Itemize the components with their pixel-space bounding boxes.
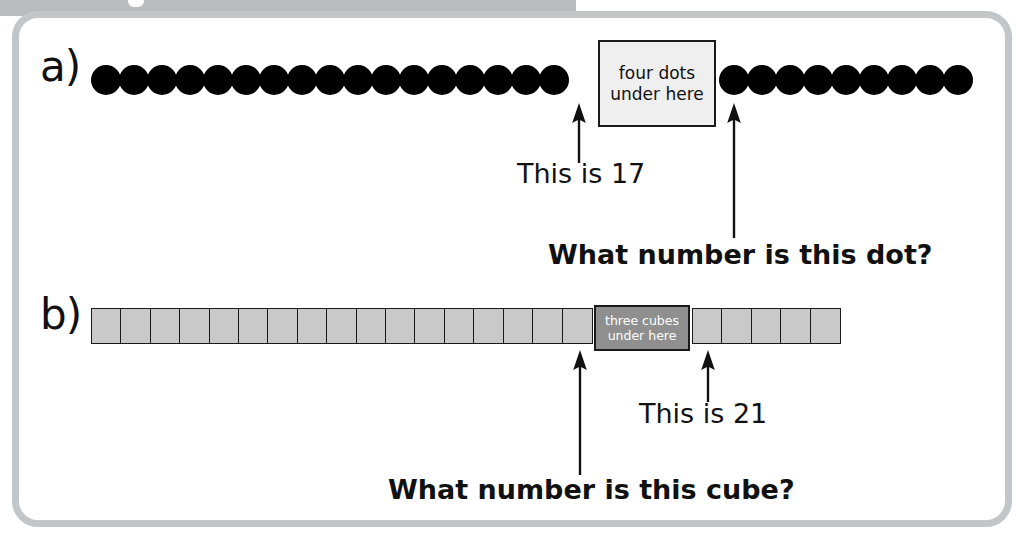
part-a-dot-29 <box>915 65 945 95</box>
part-a-dot-11 <box>371 65 401 95</box>
part-a-dot-25 <box>803 65 833 95</box>
part-b-cover-line2: under here <box>608 328 677 343</box>
part-b-cover-line1: three cubes <box>605 313 679 328</box>
part-a-dot-3 <box>147 65 177 95</box>
part-b-cube-row-right <box>692 307 839 345</box>
part-a-dot-1 <box>91 65 121 95</box>
part-b-cube-12 <box>414 308 445 344</box>
part-a-dot-6 <box>231 65 261 95</box>
part-a-dot-24 <box>775 65 805 95</box>
part-b-arrow-up-icon-question <box>567 350 593 475</box>
part-a-dot-7 <box>259 65 289 95</box>
part-b-cube-23 <box>751 308 782 344</box>
part-b-question-label: What number is this cube? <box>388 474 795 505</box>
part-b-cube-21 <box>692 308 723 344</box>
part-a-dot-14 <box>455 65 485 95</box>
part-b-cube-7 <box>267 308 298 344</box>
part-a-dot-27 <box>859 65 889 95</box>
part-a-dot-12 <box>399 65 429 95</box>
part-a-dot-26 <box>831 65 861 95</box>
part-a-arrow-up-icon-question <box>721 103 747 238</box>
part-b-known-label: This is 21 <box>639 398 767 429</box>
part-a-dot-9 <box>315 65 345 95</box>
part-a-dot-row-right <box>719 63 971 97</box>
part-a-cover-line2: under here <box>610 84 704 105</box>
part-b-cube-15 <box>503 308 534 344</box>
part-b-cube-5 <box>209 308 240 344</box>
part-b-label: b) <box>40 290 81 339</box>
part-a-dot-17 <box>539 65 569 95</box>
worksheet-content: a) four dots under here This is 17 What … <box>0 0 1034 544</box>
part-b-cube-16 <box>532 308 563 344</box>
part-a-dot-5 <box>203 65 233 95</box>
part-a-dot-13 <box>427 65 457 95</box>
part-b-cover-box: three cubes under here <box>594 305 690 351</box>
part-b-cube-8 <box>297 308 328 344</box>
part-a-dot-16 <box>511 65 541 95</box>
part-a-dot-30 <box>943 65 973 95</box>
part-b-cube-22 <box>721 308 752 344</box>
part-a-cover-line1: four dots <box>619 63 695 84</box>
part-a-dot-10 <box>343 65 373 95</box>
part-a-dot-2 <box>119 65 149 95</box>
part-a-dot-row-left <box>91 63 567 97</box>
part-b-cube-14 <box>473 308 504 344</box>
part-b-cube-25 <box>810 308 841 344</box>
part-b-cube-11 <box>385 308 416 344</box>
part-b-arrow-up-icon-known <box>695 350 721 402</box>
part-a-dot-15 <box>483 65 513 95</box>
part-a-dot-8 <box>287 65 317 95</box>
part-a-dot-4 <box>175 65 205 95</box>
worksheet-page: a) four dots under here This is 17 What … <box>0 0 1034 544</box>
part-b-cube-17 <box>562 308 593 344</box>
part-a-dot-22 <box>719 65 749 95</box>
part-b-cube-2 <box>120 308 151 344</box>
part-b-cube-10 <box>356 308 387 344</box>
part-a-dot-28 <box>887 65 917 95</box>
part-a-label: a) <box>40 42 80 91</box>
part-b-cube-4 <box>179 308 210 344</box>
part-b-cube-1 <box>91 308 122 344</box>
part-b-cube-9 <box>326 308 357 344</box>
part-b-cube-row-left <box>91 307 591 345</box>
part-a-known-label: This is 17 <box>517 158 645 189</box>
part-a-arrow-up-icon-known <box>566 103 592 163</box>
part-a-cover-box: four dots under here <box>598 40 716 127</box>
part-b-cube-24 <box>780 308 811 344</box>
part-a-dot-23 <box>747 65 777 95</box>
part-b-cube-13 <box>444 308 475 344</box>
part-b-cube-6 <box>238 308 269 344</box>
part-a-question-label: What number is this dot? <box>548 239 933 270</box>
part-b-cube-3 <box>150 308 181 344</box>
